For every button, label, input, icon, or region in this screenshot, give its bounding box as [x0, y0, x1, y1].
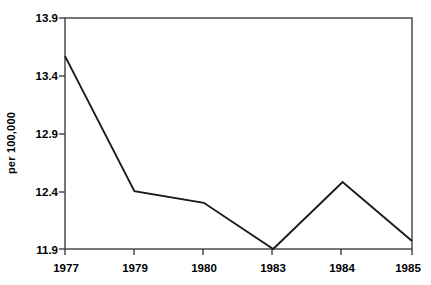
plot-frame — [65, 18, 412, 249]
line-chart-figure: per 100,000 13.9 13.4 12.9 12.4 11.9 197… — [0, 0, 431, 285]
x-tick-marks — [65, 249, 412, 255]
plot-area — [0, 0, 431, 285]
y-tick-marks — [59, 18, 65, 249]
data-series-line — [65, 56, 412, 249]
